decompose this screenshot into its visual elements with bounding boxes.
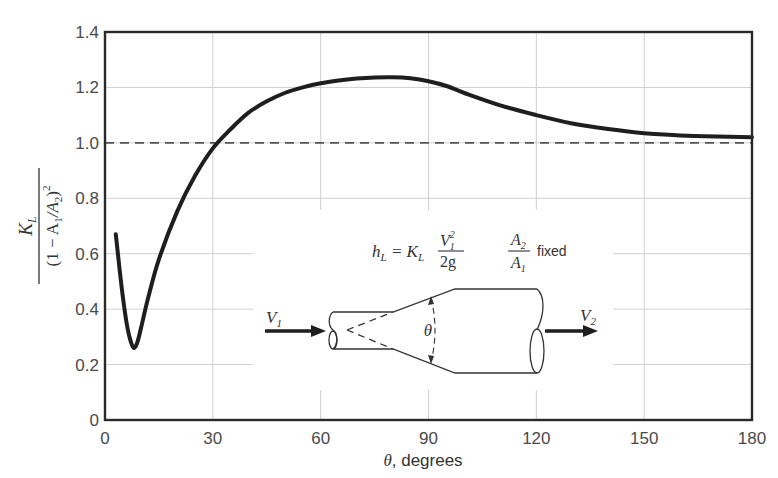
y-tick-label: 0 [90, 411, 99, 430]
y-tick-label: 1.4 [75, 23, 99, 42]
diagram-background [253, 210, 613, 390]
x-tick-label: 0 [100, 429, 109, 448]
y-tick-labels: 00.20.40.60.81.01.21.4 [75, 23, 99, 430]
x-tick-label: 120 [522, 429, 550, 448]
y-tick-label: 0.2 [75, 356, 99, 375]
svg-text:fixed: fixed [537, 243, 567, 259]
x-tick-label: 90 [419, 429, 438, 448]
y-axis-denominator: (1 − A1/A2)2 [40, 186, 64, 267]
x-tick-labels: 0306090120150180 [100, 429, 766, 448]
theta-label: θ [424, 321, 432, 340]
y-tick-label: 0.8 [75, 189, 99, 208]
svg-text:hL = KL: hL = KL [372, 242, 424, 263]
y-axis-numerator: KL [15, 216, 39, 237]
x-tick-label: 60 [311, 429, 330, 448]
x-axis-label: θ, degrees [383, 451, 462, 470]
y-axis-label: KL (1 − A1/A2)2 [15, 168, 64, 284]
chart: 0306090120150180 00.20.40.60.81.01.21.4 … [0, 0, 778, 478]
x-tick-label: 180 [738, 429, 766, 448]
y-tick-label: 1.2 [75, 78, 99, 97]
svg-text:2g: 2g [440, 253, 456, 271]
svg-text:V12: V12 [440, 229, 455, 252]
y-tick-label: 1.0 [75, 134, 99, 153]
x-tick-label: 150 [630, 429, 658, 448]
y-tick-label: 0.4 [75, 300, 99, 319]
y-tick-label: 0.6 [75, 245, 99, 264]
x-tick-label: 30 [203, 429, 222, 448]
